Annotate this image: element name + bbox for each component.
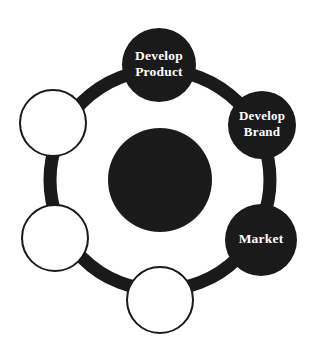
node-market[interactable]: Market <box>225 204 297 276</box>
node-develop-brand[interactable]: DevelopBrand <box>228 91 296 159</box>
node-develop-brand-label-line: Develop <box>239 108 285 123</box>
node-develop-product-label-line: Product <box>135 64 183 79</box>
node-market-label-line: Market <box>239 231 284 246</box>
node-empty-lower-left[interactable] <box>22 205 88 271</box>
cycle-diagram-canvas: DevelopProductDevelopBrandMarket <box>0 0 326 354</box>
hub-layer <box>108 128 212 232</box>
node-develop-product-label-line: Develop <box>135 48 183 63</box>
node-empty-lower-left-shape <box>22 205 88 271</box>
cycle-diagram: DevelopProductDevelopBrandMarket <box>0 0 326 354</box>
node-develop-product[interactable]: DevelopProduct <box>122 28 196 102</box>
node-empty-bottom-shape <box>127 267 193 333</box>
node-empty-upper-left-shape <box>20 90 86 156</box>
node-empty-bottom[interactable] <box>127 267 193 333</box>
center-hub <box>108 128 212 232</box>
node-empty-upper-left[interactable] <box>20 90 86 156</box>
node-develop-brand-label-line: Brand <box>244 124 281 139</box>
